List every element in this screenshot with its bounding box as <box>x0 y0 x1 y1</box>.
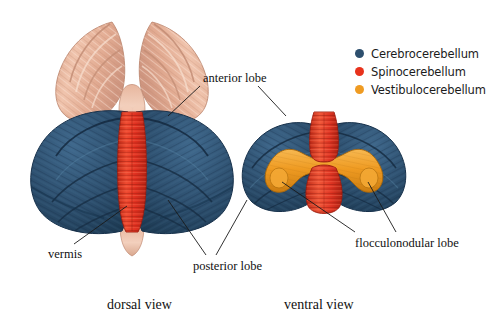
label-anterior-lobe: anterior lobe <box>203 71 267 86</box>
legend-item-cerebrocerebellum: Cerebrocerebellum <box>355 45 486 62</box>
figure-canvas: Cerebrocerebellum Spinocerebellum Vestib… <box>0 0 499 329</box>
legend-label-vestibulocerebellum: Vestibulocerebellum <box>371 83 486 97</box>
label-posterior-lobe: posterior lobe <box>193 259 262 274</box>
legend-dot-cerebrocerebellum <box>355 49 364 58</box>
legend-item-spinocerebellum: Spinocerebellum <box>355 63 486 80</box>
caption-dorsal-view: dorsal view <box>107 297 172 313</box>
legend-dot-vestibulocerebellum <box>355 85 364 94</box>
dorsal-view-illustration <box>20 15 286 256</box>
ventral-view-illustration <box>234 112 414 232</box>
legend-label-cerebrocerebellum: Cerebrocerebellum <box>371 47 479 61</box>
dorsal-vermis-spinocerebellum <box>118 112 147 232</box>
caption-ventral-view: ventral view <box>284 297 354 313</box>
label-flocculonodular-lobe: flocculonodular lobe <box>355 236 459 251</box>
legend: Cerebrocerebellum Spinocerebellum Vestib… <box>355 45 486 99</box>
legend-dot-spinocerebellum <box>355 67 364 76</box>
legend-label-spinocerebellum: Spinocerebellum <box>371 65 466 79</box>
label-vermis: vermis <box>48 247 82 262</box>
legend-item-vestibulocerebellum: Vestibulocerebellum <box>355 81 486 98</box>
leader-anterior-right-to-ventral <box>258 86 286 116</box>
